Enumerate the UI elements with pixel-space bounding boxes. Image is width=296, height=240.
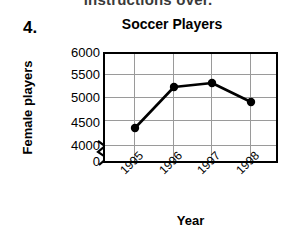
data-series-line [105, 54, 280, 165]
chart-title: Soccer Players [92, 17, 252, 31]
x-axis-title: Year [103, 213, 278, 228]
y-tick-6000: 6000 [71, 46, 100, 59]
chart-plot-area [103, 52, 278, 163]
y-axis-tick-labels: 6000 5500 5000 4500 4000 0 [47, 0, 100, 240]
clipped-header-text: instructions over. [0, 0, 296, 9]
data-point-1996 [170, 83, 178, 91]
clipped-header-label: instructions over. [0, 0, 296, 8]
data-point-1997 [208, 79, 216, 87]
data-point-1998 [247, 98, 255, 106]
data-point-1995 [131, 124, 139, 132]
question-number: 4. [23, 19, 37, 36]
y-axis-title: Female players [20, 48, 35, 168]
y-tick-4500: 4500 [71, 116, 100, 129]
y-tick-5500: 5500 [71, 68, 100, 81]
y-tick-5000: 5000 [71, 91, 100, 104]
